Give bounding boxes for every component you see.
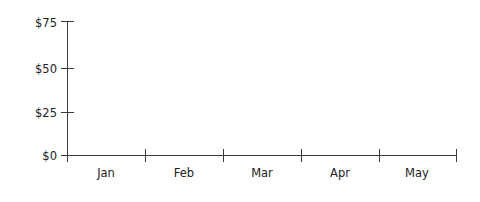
plot-area [67, 21, 456, 155]
x-axis-label-feb: Feb [174, 166, 194, 180]
x-axis-label-mar: Mar [251, 166, 273, 180]
y-axis-label-0: $0 [42, 149, 57, 163]
x-axis-label-apr: Apr [330, 166, 350, 180]
x-axis-label-may: May [405, 166, 429, 180]
y-axis-label-50: $50 [35, 62, 57, 76]
chart-container: $75 $50 $25 $0 Jan Feb Mar Apr May [0, 0, 480, 202]
y-axis-label-75: $75 [35, 16, 57, 30]
x-axis-label-jan: Jan [96, 166, 115, 180]
empty-line-chart: $75 $50 $25 $0 Jan Feb Mar Apr May [0, 0, 480, 202]
y-axis: $75 $50 $25 $0 [35, 16, 74, 163]
y-axis-label-25: $25 [35, 106, 57, 120]
